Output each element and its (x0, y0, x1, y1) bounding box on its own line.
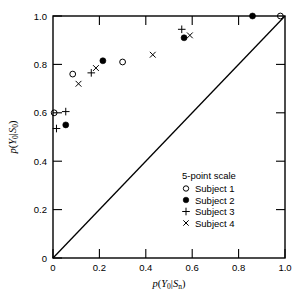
data-point (76, 81, 82, 87)
legend-label: Subject 4 (195, 218, 235, 229)
roc-scatter-figure: 0 0.2 0.4 0.6 0.8 1.0 0 0.2 0.4 0.6 0.8 … (0, 0, 299, 294)
y-tick-label: 0.4 (34, 156, 47, 167)
plus-icon (182, 208, 190, 216)
data-point (120, 59, 126, 65)
svg-text:p(Y0|Sn): p(Y0|Sn) (152, 278, 186, 291)
filled-circle-marker (63, 122, 69, 128)
x-tick-labels: 0 0.2 0.4 0.6 0.8 1.0 (50, 262, 291, 273)
x-tick-label: 0.8 (232, 262, 245, 273)
y-tick-label: 0 (42, 253, 47, 264)
cross-marker (93, 65, 99, 71)
y-axis-ticks-left (53, 16, 62, 258)
cross-marker (150, 52, 156, 58)
x-title-close: ) (182, 278, 186, 290)
filled-circle-marker (100, 58, 106, 64)
y-tick-label: 0.6 (34, 107, 47, 118)
y-tick-label: 1.0 (34, 11, 47, 22)
x-axis-title: p(Y0|Sn) (152, 278, 186, 291)
data-point (178, 26, 186, 34)
data-point (150, 52, 156, 58)
diagonal-chance-line (53, 16, 285, 258)
data-point (70, 71, 76, 77)
data-point (63, 122, 69, 128)
plus-marker (62, 108, 70, 116)
filled-circle-marker (181, 35, 187, 41)
svg-text:p(Y0|S0): p(Y0|S0) (7, 120, 20, 154)
open-circle-icon (183, 186, 188, 191)
legend-title: 5-point scale (182, 170, 236, 181)
y-tick-label: 0.8 (34, 59, 47, 70)
legend-entry-subject-3[interactable]: Subject 3 (182, 206, 234, 217)
chart-canvas: 0 0.2 0.4 0.6 0.8 1.0 0 0.2 0.4 0.6 0.8 … (0, 0, 299, 294)
legend-entry-subject-2[interactable]: Subject 2 (183, 195, 234, 206)
x-axis-ticks-top (99, 16, 238, 25)
data-point (93, 65, 99, 71)
open-circle-marker (70, 71, 76, 77)
y-axis-ticks-right (276, 64, 285, 209)
filled-circle-marker (250, 13, 256, 19)
cross-marker (187, 32, 193, 38)
filled-circle-icon (183, 197, 189, 203)
legend: 5-point scale Subject 1 Subject 2 Subjec… (182, 170, 236, 229)
cross-icon (183, 220, 188, 225)
x-tick-label: 0.4 (139, 262, 152, 273)
cross-marker (76, 81, 82, 87)
legend-label: Subject 1 (195, 183, 235, 194)
legend-label: Subject 3 (195, 206, 235, 217)
legend-entry-subject-1[interactable]: Subject 1 (183, 183, 234, 194)
legend-entry-subject-4[interactable]: Subject 4 (183, 218, 234, 229)
data-point (53, 125, 61, 133)
data-point (62, 108, 70, 116)
plus-marker (53, 125, 61, 133)
open-circle-marker (120, 59, 126, 65)
x-tick-label: 0.6 (186, 262, 199, 273)
data-point (100, 58, 106, 64)
x-tick-label: 1.0 (278, 262, 291, 273)
data-point (181, 35, 187, 41)
y-axis-title: p(Y0|S0) (7, 120, 20, 154)
y-title-close: ) (7, 120, 19, 124)
plus-marker (178, 26, 186, 34)
data-point (250, 13, 256, 19)
x-tick-label: 0 (50, 262, 55, 273)
data-point (187, 32, 193, 38)
y-tick-labels: 0 0.2 0.4 0.6 0.8 1.0 (34, 11, 47, 264)
x-axis-ticks-bottom (53, 249, 285, 258)
legend-label: Subject 2 (195, 195, 235, 206)
data-points-group (51, 13, 283, 132)
y-tick-label: 0.2 (34, 204, 47, 215)
x-tick-label: 0.2 (93, 262, 106, 273)
